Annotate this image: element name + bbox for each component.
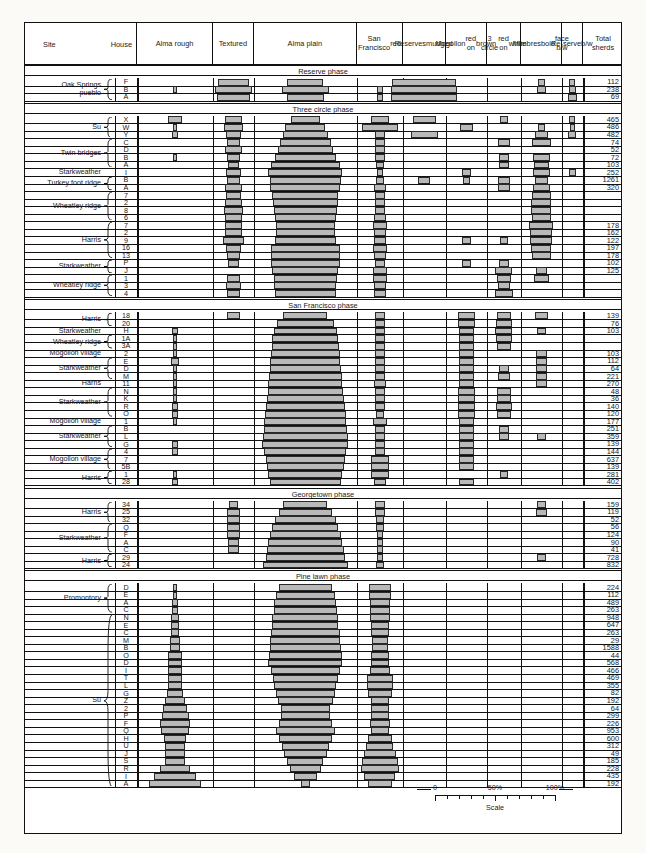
column-rule (521, 501, 522, 569)
seriation-bar (226, 169, 241, 176)
seriation-bar (371, 456, 389, 463)
seriation-bar (375, 395, 384, 402)
site-label: Harris (27, 557, 101, 565)
column-rule (562, 78, 563, 101)
seriation-bar (499, 365, 510, 372)
site-label: Su (27, 696, 101, 704)
house-label: 28 (115, 478, 137, 485)
seriation-bar (371, 660, 390, 667)
seriation-bar (496, 320, 511, 327)
seriation-bar (170, 644, 180, 651)
seriation-bar (277, 320, 334, 327)
seriation-bar (149, 780, 201, 787)
seriation-bar (173, 395, 177, 402)
scale-tick (531, 795, 532, 799)
house-label: A (115, 93, 137, 100)
seriation-bar (270, 365, 342, 372)
seriation-bar (272, 343, 340, 350)
group-brace (103, 449, 113, 470)
group-brace (103, 117, 113, 138)
seriation-bar (270, 637, 340, 644)
seriation-bar (459, 380, 474, 387)
seriation-bar (463, 177, 471, 184)
seriation-bar (375, 343, 386, 350)
seriation-bar (267, 546, 344, 553)
seriation-bar (531, 207, 551, 214)
seriation-bar (533, 154, 550, 161)
seriation-bar (276, 727, 334, 734)
seriation-bar (173, 373, 178, 380)
total-sherds-value: 832 (583, 561, 619, 568)
seriation-bar (569, 86, 576, 93)
seriation-bar (371, 712, 390, 719)
seriation-bar (375, 448, 384, 455)
seriation-bar (377, 546, 384, 553)
seriation-bar (377, 94, 384, 101)
seriation-bar (228, 162, 239, 169)
seriation-bar (218, 79, 249, 86)
total-sherds-value: 125 (583, 267, 619, 274)
group-brace (103, 615, 113, 787)
scale-lead-left (417, 789, 431, 790)
seriation-bar (279, 720, 332, 727)
seriation-bar (568, 131, 576, 138)
site-label: Harris (27, 379, 101, 387)
seriation-bar (459, 358, 474, 365)
seriation-bar (418, 177, 430, 184)
seriation-bar (496, 335, 511, 342)
seriation-bar (459, 335, 474, 342)
scale-tick-0: 0 (433, 783, 437, 792)
seriation-bar (499, 162, 510, 169)
seriation-bar (498, 373, 510, 380)
group-brace (103, 358, 113, 379)
seriation-bar (227, 154, 240, 161)
seriation-bar (497, 312, 511, 319)
seriation-bar (534, 162, 549, 169)
seriation-bar (269, 373, 342, 380)
seriation-bar (459, 426, 474, 433)
seriation-bar (274, 282, 336, 289)
seriation-bar (375, 260, 386, 267)
seriation-bar (361, 765, 399, 772)
seriation-bar (369, 584, 391, 591)
seriation-bar (375, 192, 386, 199)
seriation-bar (374, 380, 386, 387)
seriation-bar (368, 780, 392, 787)
seriation-bar (376, 516, 384, 523)
seriation-bar (538, 79, 545, 86)
seriation-bar (225, 222, 242, 229)
seriation-bar (225, 184, 242, 191)
seriation-bar (173, 86, 178, 93)
seriation-bar (497, 411, 511, 418)
seriation-bar (266, 456, 346, 463)
seriation-bar (272, 335, 338, 342)
seriation-bar (536, 509, 547, 516)
seriation-bar (364, 750, 396, 757)
group-brace (103, 335, 113, 348)
total-sherds-value: 402 (583, 478, 619, 485)
seriation-bar (367, 682, 393, 689)
seriation-bar (278, 697, 334, 704)
seriation-bar (375, 388, 384, 395)
seriation-bar (458, 320, 475, 327)
seriation-bar (364, 773, 395, 780)
seriation-bar (281, 705, 330, 712)
site-label: Harris (27, 508, 101, 516)
seriation-bar (459, 350, 474, 357)
table-header: SiteHouseAlma roughTexturedAlma plainSan… (25, 23, 621, 65)
seriation-bar (225, 116, 242, 123)
seriation-bar (167, 690, 183, 697)
seriation-bar (569, 169, 576, 176)
phase-band: Georgetown phase (25, 488, 621, 499)
seriation-bar (535, 177, 548, 184)
seriation-bar (362, 124, 398, 131)
seriation-bar (371, 629, 389, 636)
seriation-bar (370, 599, 390, 606)
seriation-bar (376, 162, 384, 169)
seriation-bar (168, 116, 183, 123)
site-label: Starkweather (27, 432, 101, 440)
header-col-alma-plain: Alma plain (254, 23, 357, 65)
seriation-bar (270, 479, 342, 486)
seriation-bar (275, 290, 336, 297)
site-label: Turkey foot ridge (27, 179, 101, 187)
